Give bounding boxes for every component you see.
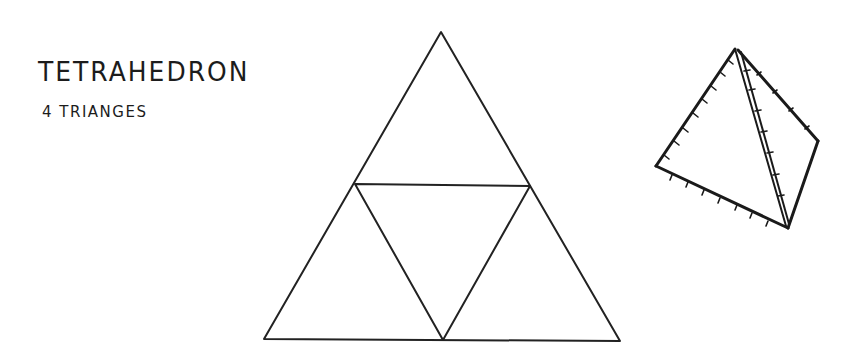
net-inner-triangle bbox=[355, 184, 530, 340]
net-outer-triangle bbox=[264, 32, 620, 341]
tetrahedron-sketch bbox=[656, 49, 818, 228]
sketch-edge-left bbox=[656, 49, 735, 166]
sketch-tab-marks bbox=[664, 60, 809, 226]
sketch-edge-bottom bbox=[656, 166, 788, 228]
diagram-canvas bbox=[0, 0, 858, 363]
sketch-edge-front-double bbox=[741, 52, 789, 224]
sketch-edge-right bbox=[788, 141, 818, 228]
tetrahedron-net bbox=[264, 32, 620, 341]
